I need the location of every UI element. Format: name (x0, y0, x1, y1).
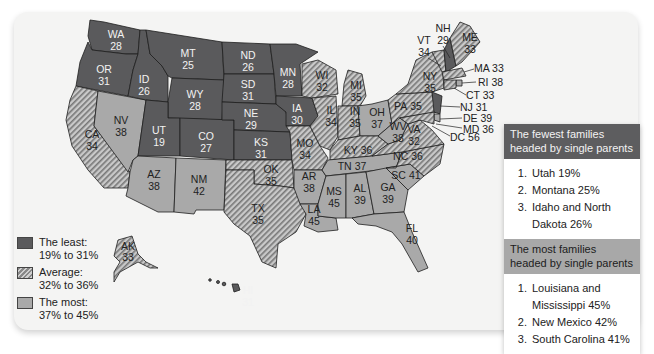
legend-swatch-most (17, 297, 33, 309)
label-NE: NE29 (244, 107, 259, 131)
fewest-list: Utah 19% Montana 25% Idaho and North Dak… (504, 159, 640, 239)
label-AZ: AZ38 (147, 168, 161, 192)
hawaii-island-small (222, 282, 226, 286)
legend-range: 32% to 36% (39, 279, 98, 291)
label-CA: CA34 (85, 128, 100, 152)
most-item: South Carolina 41% (530, 331, 634, 348)
most-item: Louisiana and Mississippi 45% (530, 280, 634, 314)
legend-item-most: The most:37% to 45% (17, 296, 98, 322)
legend-label: Average: (39, 266, 83, 278)
label-AR: AR38 (302, 170, 317, 194)
callout-line-DE (440, 118, 462, 119)
ranking-panel: The fewest families headed by single par… (504, 124, 640, 354)
label-AK: AK33 (121, 240, 135, 263)
label-WA: WA28 (108, 28, 125, 52)
label-VA: VA32 (407, 123, 420, 147)
label-OH: OH37 (369, 106, 385, 130)
label-ND: ND26 (240, 49, 256, 73)
label-CO: CO27 (198, 130, 214, 154)
legend-item-average: Average:32% to 36% (17, 266, 98, 292)
most-list: Louisiana and Mississippi 45% New Mexico… (504, 274, 640, 354)
legend-label: The most: (39, 296, 88, 308)
label-MT: MT25 (180, 47, 196, 71)
legend: The least:19% to 31% Average:32% to 36% … (17, 236, 98, 326)
state-DE[interactable] (434, 114, 440, 122)
label-UT: UT19 (152, 124, 167, 148)
label-WI: WI32 (316, 69, 329, 93)
label-SD: SD31 (241, 78, 256, 102)
callout-line-MA (464, 69, 474, 72)
label-NY: NY35 (423, 70, 438, 94)
label-MA: MA 33 (474, 62, 504, 74)
label-GA: GA39 (380, 181, 395, 205)
label-IL: IL34 (325, 104, 337, 128)
label-TX: TX35 (251, 202, 264, 226)
legend-label: The least: (39, 236, 87, 248)
label-FL: FL40 (406, 222, 418, 246)
fewest-item: Montana 25% (530, 182, 634, 199)
most-item: New Mexico 42% (530, 314, 634, 331)
label-VT: VT34 (417, 34, 431, 58)
label-KS: KS31 (254, 136, 268, 160)
label-DC: DC 56 (450, 131, 480, 143)
state-HI[interactable] (232, 284, 240, 292)
state-RI[interactable] (456, 80, 462, 86)
callout-line-NJ (440, 106, 460, 107)
fewest-item: Utah 19% (530, 165, 634, 182)
label-IN: IN35 (349, 105, 361, 129)
label-MN: MN28 (280, 66, 296, 90)
legend-item-least: The least:19% to 31% (17, 236, 98, 262)
label-NH: NH29 (435, 22, 450, 46)
callout-line-CT (454, 88, 466, 95)
label-ME: ME33 (462, 31, 478, 55)
label-MS: MS45 (326, 185, 342, 209)
legend-range: 19% to 31% (39, 249, 98, 261)
most-header: The most families headed by single paren… (504, 239, 640, 274)
hawaii-island-small (209, 279, 212, 282)
state-NJ[interactable] (432, 92, 442, 114)
label-NV: NV38 (114, 114, 129, 138)
legend-range: 37% to 45% (39, 309, 98, 321)
label-NM: NM42 (191, 173, 207, 197)
callout-line-MD (436, 124, 462, 128)
label-RI: RI 38 (478, 76, 503, 88)
label-MI: MI35 (350, 79, 362, 103)
label-NC: NC36 (393, 150, 423, 162)
label-AL: AL39 (354, 182, 367, 206)
hawaii-island-small (217, 281, 220, 284)
callout-line-RI (462, 82, 476, 83)
legend-swatch-average (17, 267, 33, 279)
label-IA: IA30 (291, 102, 303, 126)
label-OK: OK35 (263, 163, 278, 187)
legend-swatch-least (17, 237, 33, 249)
label-ID: ID26 (138, 73, 150, 97)
label-CT: CT 33 (466, 89, 495, 101)
label-LA: LA45 (308, 203, 321, 227)
fewest-header: The fewest families headed by single par… (504, 124, 640, 159)
fewest-item: Idaho and North Dakota 26% (530, 199, 634, 233)
label-HI: HI31 (242, 284, 254, 308)
